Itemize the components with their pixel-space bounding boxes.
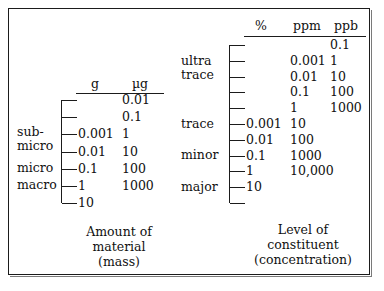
concentration-header-percent: % bbox=[246, 18, 276, 34]
concentration-scale-panel: % ppm ppb 0.1 bbox=[0, 0, 384, 291]
concentration-cell-percent: 10 bbox=[246, 179, 286, 195]
concentration-category-ultratrace: ultra trace bbox=[181, 54, 229, 81]
concentration-cell-percent: 0.01 bbox=[246, 132, 286, 148]
concentration-cell-percent: 0.001 bbox=[246, 116, 286, 132]
concentration-scale-tick bbox=[230, 203, 245, 204]
table-row: 0.01 100 bbox=[246, 132, 364, 148]
concentration-cell-ppm: 1 bbox=[290, 100, 330, 116]
concentration-scale-tick bbox=[230, 45, 245, 46]
figure-root: g µg 0.01 0.1 0.001 1 bbox=[0, 0, 384, 291]
table-row: 0.1 100 bbox=[246, 84, 364, 100]
concentration-cell-ppb: 100 bbox=[330, 84, 370, 100]
concentration-scale-tick bbox=[230, 92, 245, 93]
concentration-caption-line-3: (concentration) bbox=[228, 252, 378, 267]
concentration-header-ppm: ppm bbox=[290, 18, 324, 34]
concentration-scale-tick bbox=[230, 187, 245, 188]
concentration-cell-percent: 0.1 bbox=[246, 148, 286, 164]
concentration-cell-ppm: 0.1 bbox=[290, 84, 330, 100]
table-row: 0.1 1000 bbox=[246, 148, 364, 164]
concentration-category-major: major bbox=[181, 180, 229, 194]
table-row: 10 bbox=[246, 179, 364, 195]
concentration-scale-caption: Level of constituent (concentration) bbox=[228, 222, 378, 267]
concentration-scale-tick bbox=[230, 61, 245, 62]
concentration-header-ppb: ppb bbox=[330, 18, 362, 34]
table-row: 0.001 10 bbox=[246, 116, 364, 132]
concentration-cell-ppm: 0.001 bbox=[290, 53, 330, 69]
concentration-cell-ppm: 10 bbox=[290, 116, 330, 132]
concentration-cell-ppm: 0.01 bbox=[290, 69, 330, 85]
concentration-cell-ppm: 100 bbox=[290, 132, 330, 148]
concentration-cell-ppb: 0.1 bbox=[330, 37, 370, 53]
concentration-cell-ppb: 1000 bbox=[330, 100, 370, 116]
concentration-cell-ppb: 10 bbox=[330, 69, 370, 85]
concentration-scale-tick bbox=[230, 108, 245, 109]
concentration-cell-ppb: 1 bbox=[330, 53, 370, 69]
concentration-category-trace: trace bbox=[181, 117, 229, 131]
concentration-cell-ppm: 1000 bbox=[290, 148, 330, 164]
table-row: 0.001 1 bbox=[246, 53, 364, 69]
concentration-caption-line-2: constituent bbox=[228, 237, 378, 252]
concentration-cell-percent: 1 bbox=[246, 163, 286, 179]
concentration-scale-header-row: % ppm ppb bbox=[246, 18, 364, 34]
concentration-category-minor: minor bbox=[181, 148, 229, 162]
concentration-scale-tick bbox=[230, 77, 245, 78]
concentration-scale-tick bbox=[230, 140, 245, 141]
table-row: 1 10,000 bbox=[246, 163, 364, 179]
concentration-scale-tick bbox=[230, 156, 245, 157]
table-row: 0.01 10 bbox=[246, 69, 364, 85]
concentration-scale-bracket bbox=[229, 45, 230, 203]
concentration-scale-tick bbox=[230, 124, 245, 125]
table-row: 1 1000 bbox=[246, 100, 364, 116]
concentration-cell-ppm: 10,000 bbox=[290, 163, 338, 179]
table-row: 0.1 bbox=[246, 37, 364, 53]
concentration-caption-line-1: Level of bbox=[228, 222, 378, 237]
concentration-scale-tick bbox=[230, 171, 245, 172]
